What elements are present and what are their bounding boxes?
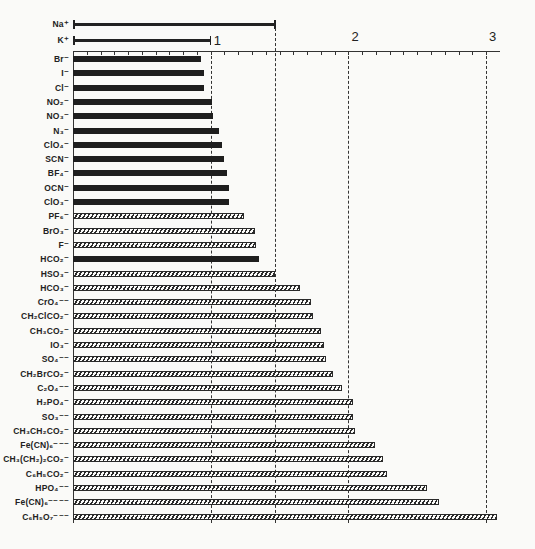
x-minor-tick — [431, 52, 432, 55]
category-label: CH₃CO₂⁻ — [30, 326, 69, 336]
x-minor-tick — [445, 52, 446, 55]
category-label: CH₃(CH₂)₂CO₂⁻ — [3, 454, 69, 464]
x-minor-tick — [376, 52, 377, 55]
category-label: ClO₃⁻ — [44, 197, 69, 207]
category-label: N₃⁻ — [53, 126, 69, 136]
x-minor-tick — [362, 52, 363, 55]
x-minor-tick — [101, 52, 102, 55]
x-minor-tick — [280, 52, 281, 55]
bar — [73, 113, 213, 119]
x-minor-tick — [307, 52, 308, 55]
bar — [73, 299, 311, 305]
cation-label: K⁺ — [57, 35, 69, 45]
category-label: PF₆⁻ — [48, 211, 69, 221]
x-minor-tick — [128, 52, 129, 55]
category-label: C₆H₅O₇⁻⁻⁻ — [22, 512, 69, 522]
x-minor-tick — [459, 52, 460, 55]
category-label: CrO₄⁻⁻ — [38, 297, 69, 307]
category-label: OCN⁻ — [44, 183, 69, 193]
bar — [73, 328, 321, 334]
category-label: CH₃CH₂CO₂⁻ — [13, 426, 69, 436]
bar — [73, 99, 212, 105]
bar — [73, 356, 326, 362]
category-label: NO₃⁻ — [47, 111, 69, 121]
bar — [73, 142, 222, 148]
bar — [73, 170, 227, 176]
category-label: SO₃⁻⁻ — [42, 412, 69, 422]
category-label: Br⁻ — [54, 54, 69, 64]
cation-cap — [210, 36, 212, 45]
bar — [73, 70, 204, 76]
x-minor-tick — [156, 52, 157, 55]
category-label: H₂PO₄⁻ — [37, 397, 69, 407]
cation-label: Na⁺ — [53, 19, 69, 29]
x-minor-tick — [224, 52, 225, 55]
x-minor-tick — [183, 52, 184, 55]
bar — [73, 56, 201, 62]
bar — [73, 242, 256, 248]
bar — [73, 414, 353, 420]
bar — [73, 371, 333, 377]
x-tick-label: 3 — [489, 29, 496, 44]
category-label: HCO₃⁻ — [40, 283, 69, 293]
bar — [73, 271, 275, 277]
bar — [73, 442, 375, 448]
x-minor-tick — [390, 52, 391, 55]
anion-bar-chart: Na⁺K⁺123Br⁻I⁻Cl⁻NO₂⁻NO₃⁻N₃⁻ClO₄⁻SCN⁻BF₄⁻… — [0, 0, 535, 549]
x-minor-tick — [417, 52, 418, 55]
category-label: BrO₃⁻ — [43, 226, 69, 236]
x-minor-tick — [114, 52, 115, 55]
cation-bar — [73, 39, 211, 42]
category-label: I⁻ — [61, 68, 69, 78]
bar — [73, 313, 313, 319]
bar — [73, 128, 219, 134]
category-label: ClO₄⁻ — [44, 140, 69, 150]
cation-cap — [73, 36, 75, 45]
x-tick-label: 1 — [214, 33, 221, 48]
category-label: SCN⁻ — [45, 154, 69, 164]
bar — [73, 228, 255, 234]
bar — [73, 514, 497, 520]
cation-cap — [73, 20, 75, 29]
category-label: HCO₂⁻ — [40, 254, 69, 264]
x-minor-tick — [266, 52, 267, 55]
x-minor-tick — [169, 52, 170, 55]
bar — [73, 485, 427, 491]
gridline — [486, 51, 487, 523]
category-label: Cl⁻ — [55, 83, 69, 93]
x-minor-tick — [197, 52, 198, 55]
bar — [73, 471, 387, 477]
bar — [73, 342, 324, 348]
x-minor-tick — [252, 52, 253, 55]
x-minor-tick — [293, 52, 294, 55]
category-label: C₆H₅CO₂⁻ — [26, 469, 69, 479]
gridline — [348, 51, 349, 523]
x-minor-tick — [87, 52, 88, 55]
x-minor-tick — [472, 52, 473, 55]
bar — [73, 499, 439, 505]
category-label: IO₃⁻ — [50, 340, 69, 350]
category-label: HSO₃⁻ — [41, 269, 69, 279]
category-label: BF₄⁻ — [48, 168, 69, 178]
x-tick-label: 2 — [351, 29, 358, 44]
bar — [73, 185, 229, 191]
category-label: CH₂ClCO₂⁻ — [21, 311, 69, 321]
category-label: F⁻ — [58, 240, 69, 250]
bar — [73, 85, 204, 91]
category-label: C₂O₄⁻⁻ — [37, 383, 69, 393]
bar — [73, 428, 355, 434]
bar — [73, 385, 342, 391]
category-label: SO₄⁻⁻ — [42, 354, 69, 364]
category-label: Fe(CN)₆⁻⁻⁻ — [20, 440, 69, 450]
x-minor-tick — [403, 52, 404, 55]
x-axis — [73, 51, 500, 52]
bar — [73, 199, 229, 205]
bar — [73, 399, 353, 405]
bar — [73, 156, 224, 162]
category-label: Fe(CN)₆⁻⁻⁻⁻ — [15, 497, 69, 507]
x-minor-tick — [238, 52, 239, 55]
x-minor-tick — [321, 52, 322, 55]
bar — [73, 285, 300, 291]
gridline — [275, 28, 276, 523]
category-label: NO₂⁻ — [47, 97, 69, 107]
